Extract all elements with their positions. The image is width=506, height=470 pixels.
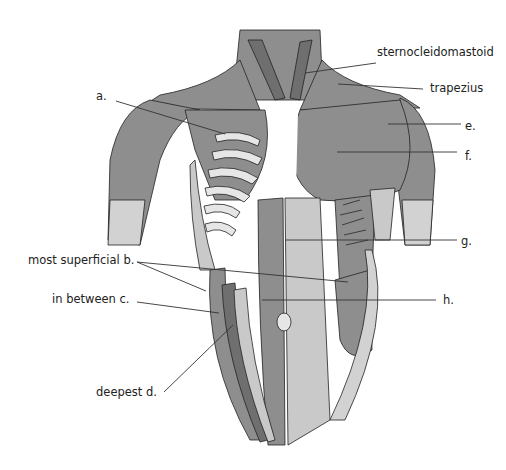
leader-d [164,325,233,392]
leader-sternocleidomastoid [305,63,376,73]
label-g: g. [461,234,472,248]
label-b: most superficial b. [28,253,134,267]
leader-b-2 [137,262,206,291]
labels-layer: sternocleidomastoid trapezius a. e. f. g… [0,0,506,470]
label-d: deepest d. [96,385,157,399]
label-c: in between c. [52,292,130,306]
anatomy-diagram: sternocleidomastoid trapezius a. e. f. g… [0,0,506,470]
label-a: a. [96,89,107,103]
leader-a [116,101,225,134]
label-h: h. [443,293,454,307]
label-trapezius: trapezius [430,81,483,95]
label-f: f. [465,149,472,163]
leader-b-1 [137,262,348,282]
leader-c [137,302,219,313]
label-e: e. [465,119,476,133]
leader-trapezius [338,84,423,89]
label-sternocleidomastoid: sternocleidomastoid [377,45,494,59]
